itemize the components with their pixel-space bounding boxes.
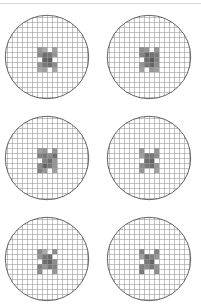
top-divider	[0, 3, 201, 4]
wafer-3	[4, 115, 90, 201]
wafer-5	[4, 216, 90, 302]
wafer-6	[106, 216, 192, 302]
wafer-4	[106, 115, 192, 201]
wafer-1	[4, 14, 90, 100]
wafer-2	[106, 14, 192, 100]
